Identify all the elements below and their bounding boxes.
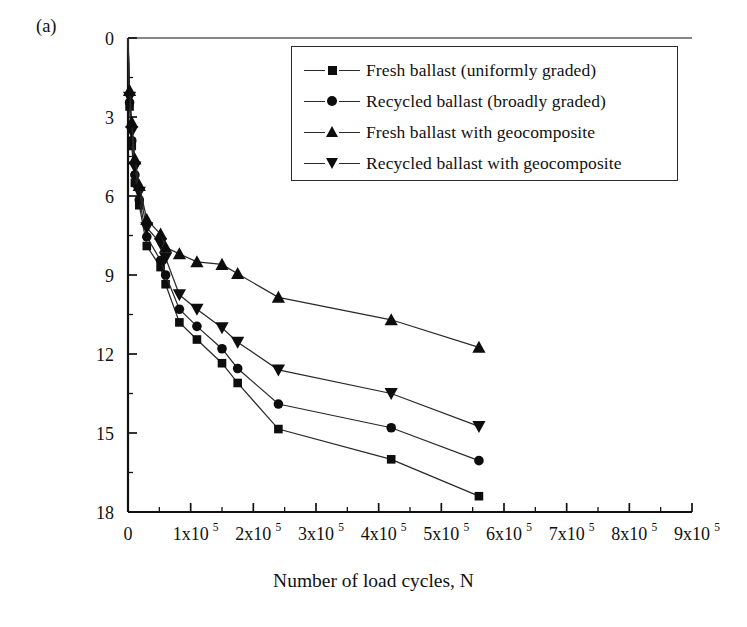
triangle-down-marker-icon (326, 158, 338, 169)
x-tick-label: 8x10 (611, 524, 647, 544)
data-point-triangle-up (190, 255, 203, 267)
y-tick-label: 0 (105, 29, 114, 49)
x-tick-label: 2x10 (235, 524, 271, 544)
x-tick-exponent: 5 (401, 521, 407, 533)
data-point-square (475, 492, 484, 501)
legend-label-recycled-ballast: Recycled ballast (broadly graded) (366, 93, 606, 111)
x-tick-exponent: 5 (213, 521, 219, 533)
data-point-triangle-down (385, 388, 398, 400)
x-tick-exponent: 5 (275, 521, 281, 533)
data-point-square (233, 379, 242, 388)
data-point-square (175, 318, 184, 327)
x-tick-label: 0 (124, 524, 133, 544)
x-tick-exponent: 5 (526, 521, 532, 533)
x-tick-exponent: 5 (651, 521, 657, 533)
circle-marker-icon (327, 96, 337, 106)
data-point-square (274, 425, 283, 434)
x-tick-exponent: 5 (463, 521, 469, 533)
legend-key-triangle-down (304, 154, 360, 174)
data-point-triangle-down (173, 289, 186, 301)
data-point-triangle-down (231, 337, 244, 349)
x-tick-label: 7x10 (549, 524, 585, 544)
y-tick-label: 12 (96, 345, 114, 365)
legend-key-circle (304, 92, 360, 112)
figure-container: 01x1052x1053x1054x1055x1056x1057x1058x10… (0, 0, 747, 627)
x-tick-label: 4x10 (361, 524, 397, 544)
legend-item-fresh-ballast: Fresh ballast (uniformly graded) (304, 55, 667, 86)
legend-label-recycled-geocomposite: Recycled ballast with geocomposite (366, 155, 622, 173)
panel-label: (a) (36, 16, 57, 37)
data-point-triangle-up (272, 291, 285, 303)
data-point-circle (175, 304, 185, 314)
y-tick-label: 3 (105, 108, 114, 128)
x-tick-exponent: 5 (338, 521, 344, 533)
data-point-triangle-down (472, 421, 485, 433)
data-point-circle (192, 322, 202, 332)
data-point-triangle-down (190, 304, 203, 316)
data-point-square (218, 359, 227, 368)
x-tick-label: 9x10 (674, 524, 710, 544)
data-point-circle (274, 399, 284, 409)
legend-item-recycled-ballast: Recycled ballast (broadly graded) (304, 86, 667, 117)
y-tick-label: 15 (96, 424, 114, 444)
data-point-triangle-up (128, 153, 141, 165)
data-point-triangle-up (123, 84, 136, 96)
x-tick-label: 3x10 (298, 524, 334, 544)
legend-label-fresh-geocomposite: Fresh ballast with geocomposite (366, 124, 595, 142)
triangle-up-marker-icon (326, 126, 338, 137)
x-axis-title: Number of load cycles, N (0, 570, 747, 592)
y-tick-label: 6 (105, 187, 114, 207)
data-point-triangle-up (472, 341, 485, 353)
legend-label-fresh-ballast: Fresh ballast (uniformly graded) (366, 62, 596, 80)
data-point-square (387, 455, 396, 464)
legend: Fresh ballast (uniformly graded) Recycle… (291, 46, 678, 181)
x-tick-label: 5x10 (423, 524, 459, 544)
legend-item-fresh-geocomposite: Fresh ballast with geocomposite (304, 117, 667, 148)
x-tick-label: 1x10 (173, 524, 209, 544)
square-marker-icon (328, 66, 337, 75)
legend-item-recycled-geocomposite: Recycled ballast with geocomposite (304, 148, 667, 179)
legend-key-square (304, 61, 360, 81)
data-point-circle (161, 270, 171, 280)
legend-key-triangle-up (304, 123, 360, 143)
data-point-square (193, 335, 202, 344)
data-point-triangle-up (173, 247, 186, 259)
data-point-triangle-up (231, 267, 244, 279)
x-tick-exponent: 5 (589, 521, 595, 533)
x-tick-exponent: 5 (714, 521, 720, 533)
data-point-circle (233, 364, 243, 374)
data-point-circle (474, 456, 484, 466)
y-tick-label: 9 (105, 266, 114, 286)
data-point-circle (386, 423, 396, 433)
x-tick-label: 6x10 (486, 524, 522, 544)
data-point-circle (217, 344, 227, 354)
y-tick-label: 18 (96, 503, 114, 523)
